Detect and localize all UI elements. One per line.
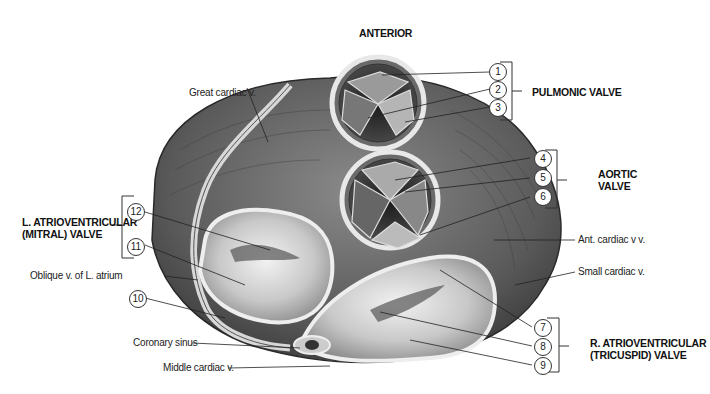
callout-5: 5 [534,169,552,187]
mitral-valve-label: L. ATRIOVENTRICULAR (MITRAL) VALVE [22,216,137,240]
callout-2: 2 [489,81,507,99]
middle-cardiac-vein-label: Middle cardiac v. [163,362,234,373]
tricuspid-valve-label: R. ATRIOVENTRICULAR (TRICUSPID) VALVE [590,337,706,361]
coronary-sinus-label: Coronary sinus [133,337,197,348]
pulmonic-valve [332,57,424,149]
callout-4: 4 [534,150,552,168]
great-cardiac-vein-label: Great cardiac v. [189,87,256,98]
pulmonic-valve-label: PULMONIC VALVE [532,86,622,98]
callout-8: 8 [534,338,552,356]
callout-7: 7 [534,319,552,337]
callout-3: 3 [489,99,507,117]
orientation-label: ANTERIOR [359,27,412,39]
callout-9: 9 [534,357,552,375]
heart-valves-illustration [0,0,710,394]
aortic-valve-label: AORTIC VALVE [598,168,637,192]
callout-10: 10 [129,290,147,308]
small-cardiac-vein-label: Small cardiac v. [578,266,645,277]
callout-6: 6 [534,188,552,206]
callout-12: 12 [127,203,145,221]
ant-cardiac-veins-label: Ant. cardiac v v. [578,234,645,245]
oblique-vein-label: Oblique v. of L. atrium [30,270,122,281]
callout-1: 1 [489,63,507,81]
callout-11: 11 [127,238,145,256]
